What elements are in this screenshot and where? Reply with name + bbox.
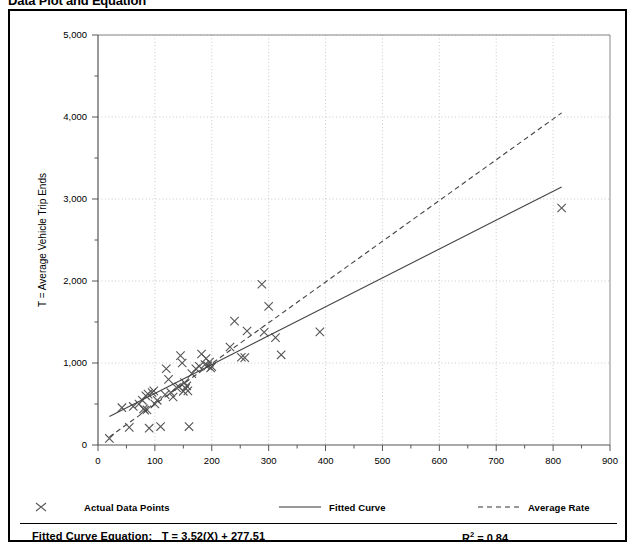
x-marker-icon bbox=[32, 500, 78, 514]
legend-item-fitted-curve: Fitted Curve bbox=[277, 494, 386, 520]
fitted-curve-equation: Fitted Curve Equation: T = 3.52(X) + 277… bbox=[32, 530, 265, 542]
page-title: Data Plot and Equation bbox=[8, 0, 146, 8]
svg-text:400: 400 bbox=[318, 455, 334, 466]
svg-text:2,000: 2,000 bbox=[63, 275, 87, 286]
legend-item-average-rate: Average Rate bbox=[476, 494, 590, 520]
svg-text:T = Average Vehicle Trip Ends: T = Average Vehicle Trip Ends bbox=[37, 173, 48, 307]
svg-text:700: 700 bbox=[488, 455, 504, 466]
r-squared-value: R2 = 0.84 bbox=[462, 530, 508, 544]
legend-label-actual-data-points: Actual Data Points bbox=[84, 502, 170, 513]
svg-text:0: 0 bbox=[82, 439, 87, 450]
scatter-plot-svg: 01,0002,0003,0004,0005,00001002003004005… bbox=[10, 11, 625, 471]
svg-text:100: 100 bbox=[147, 455, 163, 466]
chart-legend: Actual Data Points Fitted Curve Average … bbox=[10, 494, 625, 520]
r-squared-number: = 0.84 bbox=[477, 532, 508, 544]
svg-text:0: 0 bbox=[95, 455, 100, 466]
chart-screenshot: Data Plot and Equation 01,0002,0003,0004… bbox=[0, 0, 637, 552]
legend-label-fitted-curve: Fitted Curve bbox=[329, 502, 386, 513]
chart-frame: 01,0002,0003,0004,0005,00001002003004005… bbox=[8, 9, 627, 542]
svg-text:800: 800 bbox=[545, 455, 561, 466]
r-squared-exponent: 2 bbox=[470, 530, 474, 539]
solid-line-icon bbox=[277, 500, 323, 514]
equation-label: Fitted Curve Equation: bbox=[32, 530, 152, 542]
legend-item-actual-data-points: Actual Data Points bbox=[32, 494, 170, 520]
plot-area: 01,0002,0003,0004,0005,00001002003004005… bbox=[10, 11, 625, 471]
equation-divider bbox=[20, 523, 617, 524]
legend-label-average-rate: Average Rate bbox=[528, 502, 590, 513]
equation-formula: T = 3.52(X) + 277.51 bbox=[162, 530, 266, 542]
svg-text:600: 600 bbox=[431, 455, 447, 466]
svg-text:1,000: 1,000 bbox=[63, 357, 87, 368]
dashed-line-icon bbox=[476, 500, 522, 514]
svg-text:3,000: 3,000 bbox=[63, 193, 87, 204]
svg-text:4,000: 4,000 bbox=[63, 111, 87, 122]
svg-text:300: 300 bbox=[261, 455, 277, 466]
svg-text:900: 900 bbox=[602, 455, 618, 466]
r-squared-label: R bbox=[462, 532, 470, 544]
svg-text:200: 200 bbox=[204, 455, 220, 466]
svg-text:500: 500 bbox=[375, 455, 391, 466]
svg-text:5,000: 5,000 bbox=[63, 29, 87, 40]
equation-row: Fitted Curve Equation: T = 3.52(X) + 277… bbox=[10, 526, 625, 550]
